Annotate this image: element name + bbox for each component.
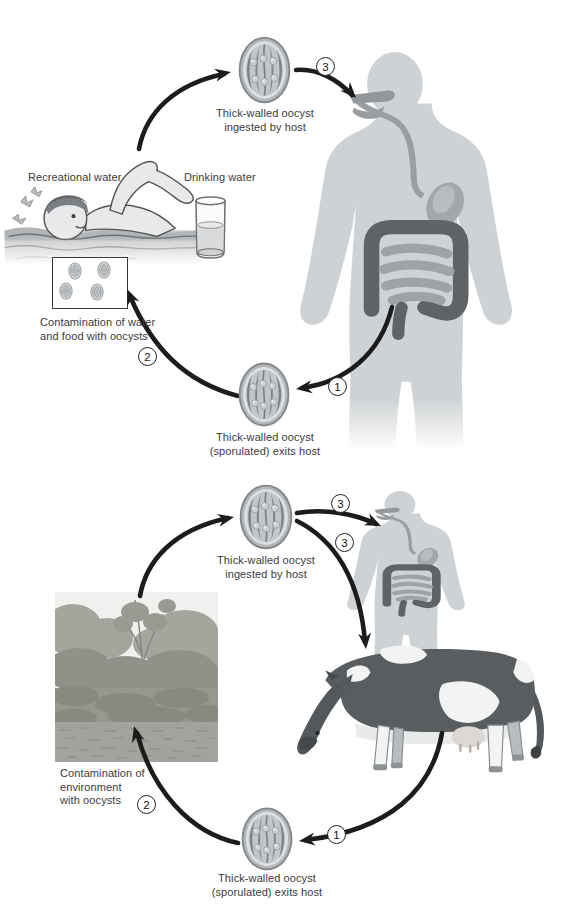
label-contamination-bottom: Contamination of environment with oocyst… xyxy=(60,767,180,808)
step-1-top: 1 xyxy=(328,377,347,396)
label-line: Contamination of xyxy=(60,767,180,781)
label-line: Drinking water xyxy=(184,171,256,185)
label-line: (sporulated) exits host xyxy=(184,445,346,459)
label-oocyst-exits-top: Thick-walled oocyst (sporulated) exits h… xyxy=(184,431,346,458)
arrow-oocyst-to-cow-bottom xyxy=(297,521,365,642)
step-3-top-label: 3 xyxy=(322,61,328,73)
arrow-host-exit-top xyxy=(302,307,392,388)
step-1-bottom: 1 xyxy=(327,825,346,844)
step-3-bottom-cow: 3 xyxy=(335,533,354,552)
step-3-bottom-cow-label: 3 xyxy=(341,537,347,549)
label-oocyst-ingested-top: Thick-walled oocyst ingested by host xyxy=(189,107,341,134)
arrow-oocyst-to-human-bottom xyxy=(297,511,376,524)
label-line: ingested by host xyxy=(189,121,341,135)
label-line: Recreational water xyxy=(28,171,122,185)
label-line: Thick-walled oocyst xyxy=(189,107,341,121)
step-3-bottom-human: 3 xyxy=(331,494,350,513)
label-contamination-top: Contamination of water and food with ooc… xyxy=(40,316,185,343)
oocyst-ingested-bottom xyxy=(238,483,294,551)
label-line: with oocysts xyxy=(60,794,180,808)
step-3-bottom-human-label: 3 xyxy=(337,498,343,510)
oocyst-ingested-top xyxy=(237,35,292,105)
step-1-top-label: 1 xyxy=(334,381,340,393)
label-oocyst-exits-bottom: Thick-walled oocyst (sporulated) exits h… xyxy=(186,872,348,899)
step-1-bottom-label: 1 xyxy=(333,829,339,841)
oocyst-exits-bottom xyxy=(240,806,294,872)
step-2-top: 2 xyxy=(138,347,157,366)
oocyst-exits-top xyxy=(237,361,291,428)
arrow-oocyst-to-contamination-top xyxy=(130,296,238,396)
label-line: ingested by host xyxy=(190,568,342,582)
label-drinking-water: Drinking water xyxy=(184,171,256,185)
arrow-cow-exit-bottom xyxy=(306,733,442,840)
label-recreational-water: Recreational water xyxy=(28,171,122,185)
label-line: Thick-walled oocyst xyxy=(186,872,348,886)
label-line: Contamination of water xyxy=(40,316,185,330)
label-line: environment xyxy=(60,781,180,795)
label-line: Thick-walled oocyst xyxy=(190,554,342,568)
step-2-top-label: 2 xyxy=(144,351,150,363)
label-line: and food with oocysts xyxy=(40,330,185,344)
label-oocyst-ingested-bottom: Thick-walled oocyst ingested by host xyxy=(190,554,342,581)
label-line: Thick-walled oocyst xyxy=(184,431,346,445)
step-3-top: 3 xyxy=(316,57,335,76)
label-line: (sporulated) exits host xyxy=(186,886,348,900)
life-cycle-diagram: 3 1 2 3 3 1 2 Thick-walled oocyst ingest… xyxy=(0,0,572,909)
